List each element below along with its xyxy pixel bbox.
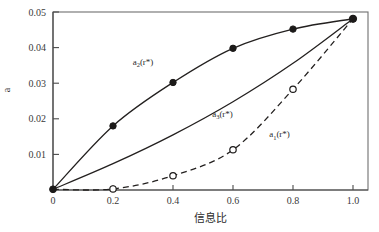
x-tick-label: 0.2 (107, 195, 120, 206)
x-tick-label: 0 (51, 195, 56, 206)
curve-label-argument: (r*) (219, 109, 233, 119)
y-tick-label: 0.04 (29, 42, 47, 53)
y-tick-label: 0.03 (29, 78, 47, 89)
y-tick-label: 0.01 (29, 149, 47, 160)
x-tick-label: 0.8 (287, 195, 300, 206)
data-point-marker (110, 123, 116, 129)
data-point-marker (290, 26, 296, 32)
curve-label-a1r: a1(r*) (269, 129, 290, 140)
data-point-marker (290, 86, 296, 92)
data-point-marker (170, 173, 176, 179)
curve-label-a3r: a3(r*) (212, 109, 233, 120)
y-tick-label: 0.02 (29, 113, 47, 124)
data-point-marker (170, 79, 176, 85)
origin-marker (50, 186, 57, 193)
chart-background (0, 0, 379, 232)
data-point-marker (110, 186, 116, 192)
y-axis-title: a (1, 87, 12, 92)
x-tick-label: 1.0 (347, 195, 360, 206)
chart-container: 00.20.40.60.81.0 0.010.020.030.040.05 a2… (0, 0, 379, 232)
curve-label-a2r: a2(r*) (133, 57, 154, 68)
y-tick-label: 0.05 (29, 7, 47, 18)
shared-endpoint-marker (349, 15, 356, 22)
x-tick-label: 0.4 (167, 195, 180, 206)
curve-label-argument: (r*) (276, 129, 290, 139)
information-ratio-line-chart: 00.20.40.60.81.0 0.010.020.030.040.05 a2… (0, 0, 379, 232)
x-axis-title: 信息比 (194, 211, 227, 224)
data-point-marker (230, 45, 236, 51)
x-tick-label: 0.6 (227, 195, 240, 206)
data-point-marker (230, 147, 236, 153)
curve-label-argument: (r*) (140, 57, 154, 67)
